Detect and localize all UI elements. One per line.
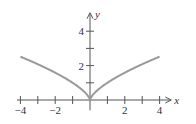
x-axis-label: x	[173, 94, 179, 106]
chart: −4−22424xy	[0, 0, 196, 124]
y-axis-label: y	[94, 8, 100, 20]
x-tick-label: −4	[15, 104, 27, 116]
x-tick-label: 2	[122, 104, 128, 116]
y-tick-label: 4	[79, 25, 85, 37]
x-tick-label: −2	[49, 104, 61, 116]
y-tick-label: 2	[79, 60, 85, 72]
x-tick-label: 4	[157, 104, 163, 116]
